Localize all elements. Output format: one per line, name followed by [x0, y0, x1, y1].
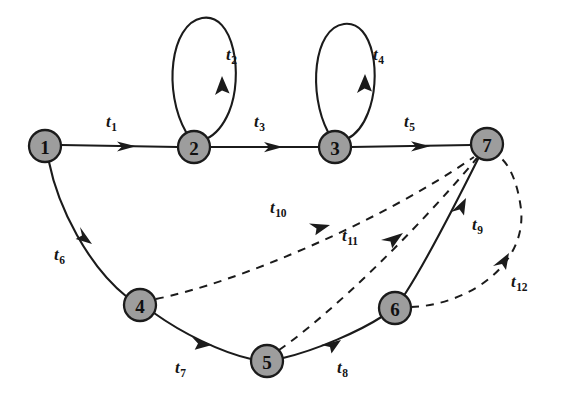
- edge-t12: [411, 155, 521, 307]
- edge-t3: [210, 142, 319, 152]
- node-3-label: 3: [330, 138, 340, 159]
- edge-label-t4: t4: [373, 46, 384, 66]
- edge-label-t8: t8: [337, 359, 348, 379]
- edge-t12-line: [411, 155, 521, 307]
- edge-layer: [49, 18, 521, 359]
- edge-label-t2: t2: [226, 46, 237, 66]
- edge-t1: [61, 141, 178, 151]
- edge-label-t9: t9: [472, 216, 483, 236]
- edge-t4: [316, 24, 375, 139]
- node-3[interactable]: 3: [319, 131, 351, 163]
- edge-label-t6: t6: [54, 246, 65, 266]
- node-7[interactable]: 7: [471, 128, 503, 160]
- node-layer: 1 2 3 4 5 6: [29, 128, 503, 377]
- edge-t6-line: [49, 162, 127, 297]
- edge-label-t10: t10: [270, 199, 286, 219]
- node-1-label: 1: [40, 137, 50, 158]
- edge-t8: [283, 316, 383, 358]
- node-5[interactable]: 5: [251, 345, 283, 377]
- edge-label-t12: t12: [511, 273, 527, 293]
- edge-t10-line: [156, 157, 474, 299]
- edge-t2-line: [172, 18, 235, 139]
- edge-label-t1: t1: [106, 113, 117, 133]
- edge-t11-line: [279, 158, 477, 350]
- node-4-label: 4: [135, 296, 145, 317]
- edge-t11-arrowhead: [381, 233, 403, 248]
- edge-t1-line: [61, 145, 178, 147]
- edge-t4-arrowhead: [357, 74, 372, 93]
- edge-t7-line: [154, 313, 251, 359]
- node-4[interactable]: 4: [124, 289, 156, 321]
- node-7-label: 7: [482, 135, 492, 156]
- edge-t5-line: [351, 145, 471, 147]
- edge-t2-arrowhead: [215, 76, 230, 95]
- edge-label-t3: t3: [254, 113, 265, 133]
- edge-t5: [351, 141, 471, 151]
- node-6[interactable]: 6: [379, 292, 411, 324]
- node-6-label: 6: [390, 299, 400, 320]
- edge-t6: [49, 162, 127, 297]
- node-1[interactable]: 1: [29, 130, 61, 162]
- node-2-label: 2: [189, 138, 199, 159]
- edge-t12-arrowhead: [493, 253, 509, 270]
- edge-t7: [154, 313, 251, 359]
- edge-t2: [172, 18, 235, 139]
- edge-t10: [156, 157, 474, 299]
- node-5-label: 5: [262, 352, 272, 373]
- edge-label-t7: t7: [175, 359, 186, 379]
- transition-graph-figure: 1 2 3 4 5 6: [0, 0, 561, 400]
- edge-t8-line: [283, 316, 383, 358]
- edge-t10-arrowhead: [309, 224, 330, 236]
- edge-label-t11: t11: [342, 227, 358, 247]
- edge-t11: [279, 158, 477, 350]
- edge-label-t5: t5: [404, 113, 415, 133]
- node-2[interactable]: 2: [178, 131, 210, 163]
